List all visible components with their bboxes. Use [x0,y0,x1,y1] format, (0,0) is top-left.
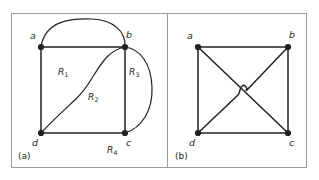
panel-b-vertex-b [285,44,291,50]
panel-a-vertex-a [38,44,44,50]
figure-container: a b c d R1 R2 R3 R4 (a) a b c d (b) [0,0,319,180]
panel-a-region-r2-sub: 2 [95,96,99,103]
panel-b-vertex-d [195,130,201,136]
panel-a-caption: (a) [18,152,31,161]
panel-b-label-a: a [187,31,193,41]
panel-a-region-r3-sub: 3 [136,71,140,78]
panel-b-label-c: c [289,138,294,148]
figure-frame [12,14,307,168]
panel-a-region-r3-base: R [129,67,135,77]
panel-a-label-a: a [30,31,36,41]
panel-b-label-d: d [189,138,195,148]
panel-a-region-r4: R4 [107,146,117,155]
panel-a-region-r2-base: R [88,92,94,102]
panel-b-vertex-c [285,130,291,136]
panel-b-label-b: b [289,30,295,40]
panel-a-vertex-c [122,130,128,136]
panel-a-vertex-b [122,44,128,50]
panel-a-region-r4-sub: 4 [114,149,118,156]
panel-a-region-r1: R1 [58,68,68,77]
panel-a-region-r2: R2 [88,93,98,102]
panel-b-vertex-a [195,44,201,50]
panel-a-vertex-d [38,130,44,136]
panel-a-region-r3: R3 [129,68,139,77]
panel-a-region-r1-sub: 1 [65,71,69,78]
panel-b-caption: (b) [175,152,188,161]
panel-a-label-c: c [126,138,131,148]
figure-drawing [0,0,319,180]
panel-a-label-d: d [32,138,38,148]
panel-a-region-r1-base: R [58,67,64,77]
panel-a-region-r4-base: R [107,145,113,155]
panel-a-label-b: b [126,30,132,40]
